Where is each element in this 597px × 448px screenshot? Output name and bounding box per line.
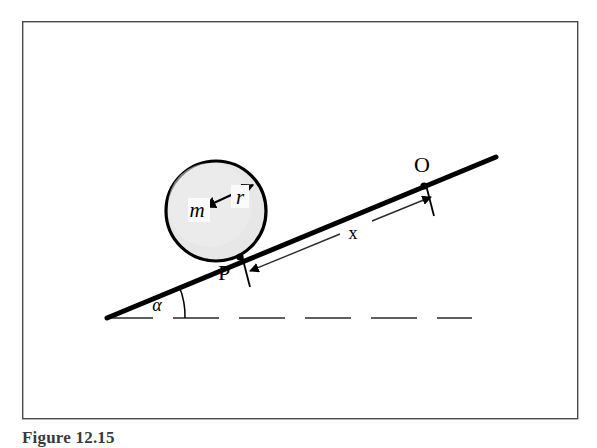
mass-label: m: [189, 198, 204, 222]
angle-label: α: [152, 295, 162, 315]
figure-caption: Figure 12.15: [22, 428, 115, 448]
distance-label: x: [349, 223, 358, 243]
radius-label: r: [236, 185, 245, 209]
incline-line: [107, 157, 496, 318]
origin-point-label: O: [414, 152, 430, 177]
tick-at-O: [426, 185, 434, 216]
x-dimension-right-segment: [372, 197, 431, 221]
contact-point-label: P: [218, 260, 230, 285]
figure-border: [23, 22, 578, 419]
angle-arc: [179, 286, 185, 318]
